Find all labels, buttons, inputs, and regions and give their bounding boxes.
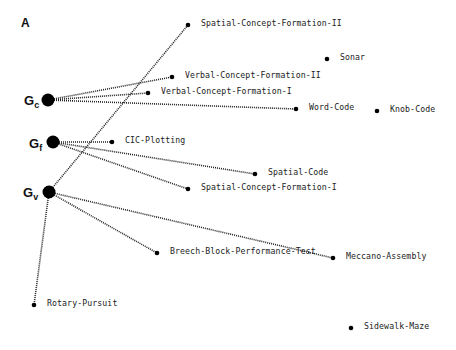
edge-gc-wordcode	[48, 100, 296, 109]
edge-gc-vcf1	[48, 93, 148, 100]
test-label-knobcode: Knob-Code	[390, 105, 435, 113]
factor-subscript: f	[39, 143, 42, 153]
factor-subscript: c	[34, 100, 39, 110]
test-node-scf2	[186, 23, 191, 28]
test-node-sidewalk	[349, 326, 354, 331]
test-label-cic: CIC-Plotting	[125, 136, 185, 144]
factor-symbol: G	[29, 136, 39, 151]
test-label-spatialcode: Spatial-Code	[268, 168, 328, 176]
edge-gv-scf2	[49, 25, 188, 192]
test-label-breech: Breech-Block-Performance-Test	[170, 247, 316, 255]
test-label-wordcode: Word-Code	[309, 103, 354, 111]
panel-label: A	[21, 16, 30, 30]
edges-layer	[34, 25, 333, 305]
edge-gc-vcf2	[48, 77, 172, 100]
factor-label-gf: Gf	[29, 137, 42, 153]
test-node-vcf1	[146, 91, 151, 96]
test-label-vcf1: Verbal-Concept-Formation-I	[161, 87, 292, 95]
edge-gv-rotary	[34, 192, 49, 305]
test-label-vcf2: Verbal-Concept-Formation-II	[185, 71, 321, 79]
test-label-meccano: Meccano-Assembly	[346, 252, 426, 260]
factor-symbol: G	[24, 93, 34, 108]
edge-gv-breech	[49, 192, 157, 253]
test-node-breech	[155, 251, 160, 256]
test-node-cic	[110, 140, 115, 145]
test-node-vcf2	[170, 75, 175, 80]
factor-label-gc: Gc	[24, 94, 39, 110]
test-label-sonar: Sonar	[340, 53, 365, 61]
test-node-spatialcode	[253, 172, 258, 177]
edge-gf-scf1	[53, 142, 188, 189]
factor-node-gc	[42, 94, 55, 107]
factor-label-gv: Gv	[23, 186, 38, 202]
factor-subscript: v	[33, 192, 38, 202]
test-label-scf1: Spatial-Concept-Formation-I	[201, 183, 337, 191]
test-node-knobcode	[375, 109, 380, 114]
test-label-rotary: Rotary-Pursuit	[47, 299, 117, 307]
test-node-wordcode	[294, 107, 299, 112]
factor-node-gv	[43, 186, 56, 199]
test-label-scf2: Spatial-Concept-Formation-II	[201, 19, 342, 27]
factor-symbol: G	[23, 185, 33, 200]
test-node-sonar	[325, 57, 330, 62]
factor-node-gf	[47, 136, 60, 149]
test-node-meccano	[331, 256, 336, 261]
test-label-sidewalk: Sidewalk-Maze	[364, 322, 429, 330]
test-node-scf1	[186, 187, 191, 192]
edge-gf-spatialcode	[53, 142, 255, 174]
test-node-rotary	[32, 303, 37, 308]
